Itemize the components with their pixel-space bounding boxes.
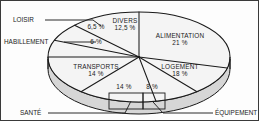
slice-name-transports: TRANSPORTS — [63, 63, 129, 70]
slice-name-alimentation: ALIMENTATION — [141, 32, 219, 39]
slice-label-logement: LOGEMENT 18 % — [149, 63, 211, 78]
slice-name-logement: LOGEMENT — [149, 63, 211, 70]
callout-label-loisir: LOISIR — [13, 16, 34, 23]
slice-pct-equipement-inside: 8 % — [141, 83, 163, 90]
slice-pct-alimentation: 21 % — [141, 39, 219, 46]
slice-pct-habillement-inside: 6 % — [85, 38, 107, 45]
slice-pct-sante-inside: 14 % — [111, 83, 137, 90]
callout-label-habillement: HABILLEMENT — [4, 38, 48, 45]
slice-label-alimentation: ALIMENTATION 21 % — [141, 32, 219, 47]
chart-frame: ALIMENTATION 21 % LOGEMENT 18 % TRANSPOR… — [0, 0, 259, 121]
callout-label-equipement: ÉQUIPEMENT — [215, 109, 257, 116]
slice-label-transports: TRANSPORTS 14 % — [63, 63, 129, 78]
slice-pct-loisir-inside: 6,5 % — [83, 23, 109, 30]
slice-pct-transports: 14 % — [63, 70, 129, 77]
slice-pct-logement: 18 % — [149, 70, 211, 77]
callout-label-sante: SANTÉ — [20, 109, 41, 116]
